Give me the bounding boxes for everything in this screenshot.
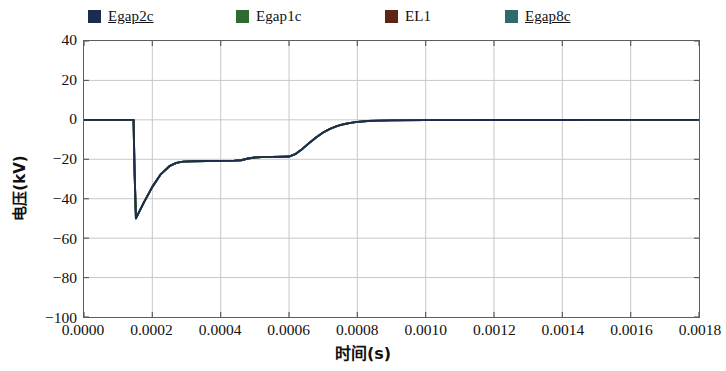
data-series-group (84, 120, 699, 219)
y-tick-label: 40 (3, 32, 77, 48)
chart-figure: Egap2cEgap1cEL1Egap8c 40200−20−40−60−80−… (0, 0, 726, 371)
y-tick-label: −80 (3, 271, 77, 287)
tick-marks (84, 41, 699, 317)
legend-item-label: Egap2c (108, 8, 154, 25)
legend-item-label: EL1 (405, 8, 431, 25)
series-line-egap2c (84, 120, 699, 219)
y-axis-title: 电压(kV) (12, 128, 28, 248)
plot-area (83, 40, 700, 318)
y-tick-label: 20 (3, 72, 77, 88)
legend-swatch-icon (505, 10, 518, 23)
series-line-egap1c (84, 120, 699, 219)
legend-item-egap2c[interactable]: Egap2c (88, 4, 154, 28)
legend-item-label: Egap1c (256, 8, 302, 25)
legend-swatch-icon (88, 10, 101, 23)
chart-legend: Egap2cEgap1cEL1Egap8c (0, 4, 726, 32)
grid-lines (84, 41, 699, 317)
series-line-egap8c (84, 120, 699, 219)
plot-canvas (84, 41, 699, 317)
legend-swatch-icon (385, 10, 398, 23)
series-line-el1 (84, 120, 699, 219)
x-tick-label: 0.0018 (645, 322, 726, 338)
legend-item-egap8c[interactable]: Egap8c (505, 4, 571, 28)
x-axis-tick-labels: 0.00000.00020.00040.00060.00080.00100.00… (0, 322, 726, 344)
legend-item-label: Egap8c (525, 8, 571, 25)
y-tick-label: 0 (3, 112, 77, 128)
x-axis-title: 时间(s) (0, 345, 726, 363)
legend-swatch-icon (236, 10, 249, 23)
legend-item-el1[interactable]: EL1 (385, 4, 431, 28)
legend-item-egap1c[interactable]: Egap1c (236, 4, 302, 28)
